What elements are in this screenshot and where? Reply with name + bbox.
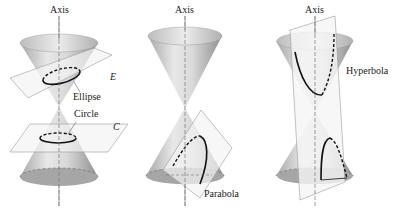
hyperbola-label: Hyperbola (346, 65, 389, 76)
plane-c-label: C (113, 121, 120, 132)
conic-diagram: Axis E Ellipse Circle C Axis Parabola (0, 0, 396, 218)
panel-ellipse-circle: Axis E Ellipse Circle C (10, 4, 128, 206)
plane-c (10, 124, 128, 152)
plane-parabola (163, 110, 232, 198)
plane-e-label: E (109, 71, 116, 82)
panel-hyperbola: Axis Hyperbola (276, 4, 389, 206)
axis-label: Axis (50, 4, 69, 15)
axis-label: Axis (175, 4, 194, 15)
conic-sections-figure: Axis E Ellipse Circle C Axis Parabola (0, 0, 396, 218)
axis-label: Axis (305, 4, 324, 15)
plane-hyperbola (290, 16, 345, 200)
panel-parabola: Axis Parabola (146, 4, 240, 206)
parabola-label: Parabola (204, 188, 240, 199)
ellipse-label: Ellipse (73, 91, 101, 102)
lower-cone-base (20, 168, 98, 186)
circle-label: Circle (74, 108, 99, 119)
